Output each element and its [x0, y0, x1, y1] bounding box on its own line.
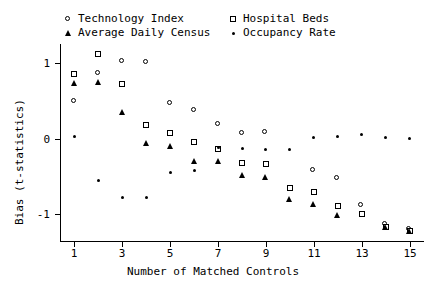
data-point-circle	[334, 175, 339, 180]
y-tick	[55, 139, 60, 140]
data-point-triangle	[406, 228, 412, 234]
data-point-triangle	[310, 201, 316, 207]
legend-marker-dot	[227, 28, 239, 40]
data-point-square	[287, 185, 293, 191]
data-point-dot	[217, 146, 220, 149]
data-point-circle	[358, 202, 363, 207]
data-point-square	[230, 16, 236, 22]
data-point-triangle	[65, 30, 71, 36]
data-point-triangle	[167, 143, 173, 149]
y-tick-label: 0	[28, 134, 50, 145]
x-tick-label: 15	[398, 248, 422, 259]
data-point-square	[359, 211, 365, 217]
data-point-dot	[384, 136, 387, 139]
y-tick	[55, 63, 60, 64]
data-point-dot	[145, 196, 148, 199]
x-axis-line	[60, 241, 424, 242]
x-tick-label: 13	[350, 248, 374, 259]
data-point-circle	[191, 107, 196, 112]
data-point-circle	[71, 98, 76, 103]
legend-marker-circle	[62, 14, 74, 26]
data-point-square	[263, 161, 269, 167]
data-point-dot	[360, 133, 363, 136]
y-tick-label: -1	[28, 209, 50, 220]
y-axis-title: Bias (t-statistics)	[14, 99, 25, 225]
x-axis-title: Number of Matched Controls	[0, 266, 426, 277]
data-point-triangle	[334, 212, 340, 218]
x-tick-label: 9	[254, 248, 278, 259]
data-point-square	[71, 71, 77, 77]
data-point-circle	[262, 129, 267, 134]
data-point-dot	[121, 196, 124, 199]
data-point-dot	[336, 135, 339, 138]
y-tick	[55, 214, 60, 215]
legend-marker-triangle	[62, 28, 74, 40]
y-tick-label: 1	[28, 58, 50, 69]
data-point-dot	[288, 148, 291, 151]
x-tick-label: 1	[62, 248, 86, 259]
legend-label: Occupancy Rate	[243, 27, 336, 38]
data-point-circle	[143, 59, 148, 64]
data-point-dot	[408, 137, 411, 140]
data-point-triangle	[71, 80, 77, 86]
chart-legend: Technology Index Hospital Beds Average D…	[0, 0, 426, 40]
x-tick-label: 7	[206, 248, 230, 259]
data-point-square	[335, 203, 341, 209]
x-tick-label: 3	[110, 248, 134, 259]
data-point-triangle	[239, 172, 245, 178]
data-point-triangle	[215, 158, 221, 164]
x-tick-label: 5	[158, 248, 182, 259]
data-point-dot	[193, 169, 196, 172]
legend-label: Technology Index	[78, 13, 184, 24]
data-point-square	[239, 160, 245, 166]
scatter-chart: Technology Index Hospital Beds Average D…	[0, 0, 426, 284]
data-point-dot	[169, 171, 172, 174]
data-point-circle	[167, 100, 172, 105]
data-point-circle	[239, 130, 244, 135]
data-point-circle	[65, 16, 70, 21]
data-point-triangle	[191, 158, 197, 164]
data-point-dot	[241, 147, 244, 150]
data-point-square	[95, 51, 101, 57]
data-point-circle	[95, 70, 100, 75]
legend-label: Hospital Beds	[243, 13, 329, 24]
data-point-square	[311, 189, 317, 195]
data-point-dot	[73, 135, 76, 138]
data-point-circle	[119, 58, 124, 63]
data-point-dot	[312, 136, 315, 139]
data-point-dot	[97, 179, 100, 182]
x-tick-label: 11	[302, 248, 326, 259]
data-point-circle	[215, 121, 220, 126]
data-point-circle	[310, 167, 315, 172]
data-point-triangle	[95, 79, 101, 85]
y-axis-line	[60, 44, 61, 241]
legend-label: Average Daily Census	[78, 27, 210, 38]
data-point-square	[167, 130, 173, 136]
data-point-dot	[232, 32, 235, 35]
data-point-triangle	[262, 174, 268, 180]
data-point-triangle	[382, 224, 388, 230]
data-point-square	[119, 81, 125, 87]
data-point-triangle	[143, 140, 149, 146]
data-point-dot	[264, 148, 267, 151]
data-point-triangle	[119, 109, 125, 115]
data-point-square	[143, 122, 149, 128]
data-point-triangle	[286, 196, 292, 202]
legend-marker-square	[227, 14, 239, 26]
data-point-square	[191, 139, 197, 145]
